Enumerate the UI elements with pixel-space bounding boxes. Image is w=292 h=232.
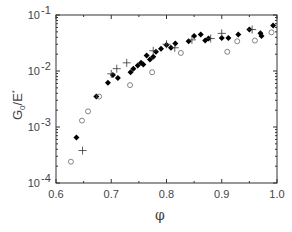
svg-text:0.6: 0.6: [48, 188, 63, 200]
y-axis-label: G0/E*: [10, 90, 27, 120]
svg-text:10: 10: [28, 9, 40, 21]
scatter-chart: 0.60.70.80.91.0 10-410-310-210-1 φ G0/E*: [0, 0, 292, 232]
svg-text:10: 10: [28, 177, 40, 189]
x-tick-labels: 0.60.70.80.91.0: [48, 188, 284, 200]
svg-text:G0/E*: G0/E*: [10, 90, 27, 120]
axis-ticks: [56, 15, 277, 183]
svg-text:0.7: 0.7: [104, 188, 119, 200]
y-tick-labels: 10-410-310-210-1: [28, 4, 51, 189]
svg-text:1.0: 1.0: [269, 188, 284, 200]
svg-text:-2: -2: [41, 60, 51, 72]
svg-text:10: 10: [28, 121, 40, 133]
svg-text:-3: -3: [41, 116, 51, 128]
svg-text:-1: -1: [41, 4, 51, 16]
svg-text:0.9: 0.9: [214, 188, 229, 200]
plot-frame: [56, 15, 277, 183]
data-points: [68, 22, 276, 164]
svg-text:0.8: 0.8: [159, 188, 174, 200]
svg-text:-4: -4: [41, 172, 51, 184]
x-axis-label: φ: [155, 207, 165, 223]
svg-text:10: 10: [28, 65, 40, 77]
